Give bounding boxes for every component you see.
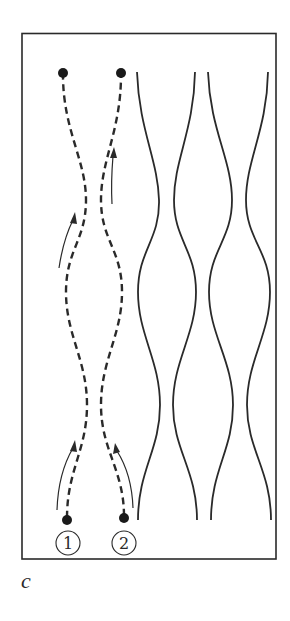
particle-2-end-dot (116, 68, 126, 78)
arrow-up-icon (113, 443, 120, 454)
arrow-up-icon (70, 440, 77, 452)
arrow-line-middle-left (59, 220, 73, 268)
arrow-up-icon (70, 212, 77, 224)
panel-label: c (21, 568, 31, 593)
particle-1-start-dot (62, 515, 72, 525)
particle-label-1: 1 (56, 531, 80, 555)
arrow-up-icon (110, 147, 117, 158)
solid-curves (137, 72, 271, 520)
solid-curve-a (137, 72, 160, 520)
channel-flow-diagram: 1 2 c (0, 0, 290, 621)
direction-arrows (57, 147, 133, 510)
particle-1-end-dot (58, 68, 68, 78)
solid-curve-c (208, 72, 233, 520)
solid-curve-d (246, 72, 271, 520)
particle-label-2: 2 (112, 531, 136, 555)
trajectory-2 (101, 75, 124, 516)
particle-number-1: 1 (63, 534, 73, 553)
particle-2-start-dot (119, 513, 129, 523)
solid-curve-b (173, 72, 197, 520)
particle-number-2: 2 (119, 534, 129, 553)
arrow-line-upper-right (112, 156, 113, 204)
